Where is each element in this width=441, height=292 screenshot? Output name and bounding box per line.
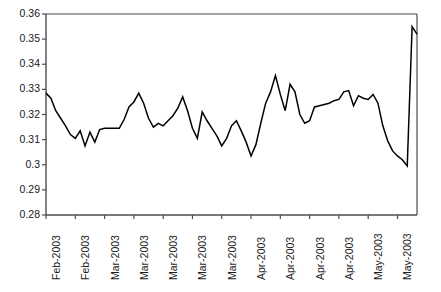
x-axis-tick-label: May-2003 (372, 233, 384, 280)
line-chart: 0.360.350.340.330.320.310.30.290.28 Feb-… (0, 0, 441, 292)
x-axis-tick-label: Feb-2003 (50, 235, 62, 280)
x-axis-tick-label: Apr-2003 (255, 237, 267, 280)
y-axis-tick-label: 0.31 (20, 133, 40, 145)
y-axis-tick-label: 0.34 (20, 57, 40, 69)
chart-axes (46, 14, 417, 215)
x-axis-tick-label: Mar-2003 (226, 235, 238, 280)
y-axis-tick-label: 0.29 (20, 183, 40, 195)
x-axis-tick-label: Apr-2003 (343, 237, 355, 280)
x-axis-tick-label: May-2003 (401, 233, 413, 280)
y-axis-tick-label: 0.32 (20, 108, 40, 120)
x-axis-tick-label: Mar-2003 (109, 235, 121, 280)
y-axis-tick-label: 0.33 (20, 82, 40, 94)
x-axis-tick-label: Feb-2003 (79, 235, 91, 280)
y-axis-tick-label: 0.28 (20, 208, 40, 220)
x-axis-tick-label: Apr-2003 (284, 237, 296, 280)
x-axis-tick-label: Mar-2003 (196, 235, 208, 280)
y-axis-tick-label: 0.3 (25, 158, 40, 170)
x-axis-tick-label: Mar-2003 (138, 235, 150, 280)
y-axis-tick-label: 0.35 (20, 32, 40, 44)
y-axis-tick-label: 0.36 (20, 7, 40, 19)
x-axis-tick-label: Mar-2003 (167, 235, 179, 280)
data-series-line (46, 27, 417, 166)
x-axis-tick-label: Apr-2003 (314, 237, 326, 280)
